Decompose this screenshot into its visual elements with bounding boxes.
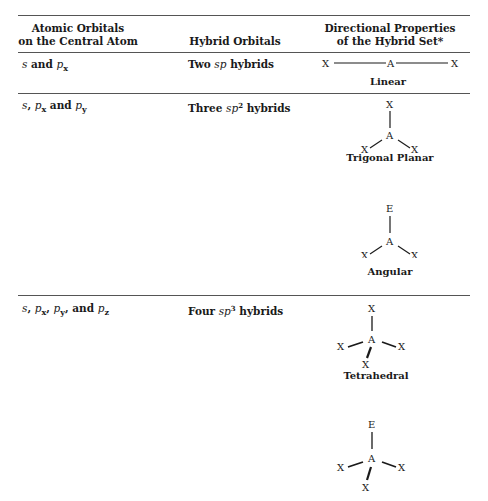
subscript: x [63, 63, 68, 73]
header-rule [18, 52, 470, 53]
text: hybrids [243, 102, 291, 114]
tetrahedral-geometry-diagram: X A X X X [330, 298, 440, 368]
header-hybrid-orbitals: Hybrid Orbitals [180, 35, 290, 48]
atom-a: A [367, 453, 376, 464]
atom-x: X [451, 58, 459, 69]
atom-a: A [385, 236, 394, 247]
header-atomic-orbitals: Atomic Orbitals on the Central Atom [18, 22, 138, 48]
header-line: of the Hybrid Set* [320, 35, 460, 48]
text: and [46, 99, 75, 111]
sp: sp [214, 58, 226, 70]
header-line: Hybrid Orbitals [180, 35, 290, 48]
atom-x: X [322, 58, 330, 69]
row3-hybrid: Four sp3 hybrids [188, 302, 283, 318]
row2-orbitals: s, px and py [22, 99, 87, 116]
atom-a: A [386, 58, 395, 69]
row1-orbitals: s and px [22, 58, 68, 75]
text: hybrids [236, 305, 284, 317]
header-line: Directional Properties [320, 22, 460, 35]
sp: sp [219, 305, 231, 317]
subscript: z [104, 307, 109, 317]
row-rule-2 [18, 295, 470, 296]
atom-e: E [386, 203, 393, 214]
text: , [27, 302, 34, 314]
linear-geometry-diagram: X A X [320, 55, 470, 75]
row2-hybrid: Three sp2 hybrids [188, 99, 291, 115]
atom-x: X [398, 462, 406, 473]
atom-x: X [411, 250, 419, 258]
angular-geometry-diagram: E A X X [340, 198, 440, 258]
atom-x: X [386, 99, 394, 110]
atom-x: X [362, 482, 370, 493]
geometry-label-tetrahedral: Tetrahedral [306, 370, 446, 381]
trigonal-planar-geometry-diagram: X A X X [340, 96, 440, 156]
text: , [27, 99, 34, 111]
geometry-label-angular: Angular [320, 266, 460, 277]
atom-a: A [367, 334, 376, 345]
table-top-rule [18, 15, 470, 16]
row1-hybrid: Two sp hybrids [188, 58, 274, 71]
row-rule-1 [18, 93, 470, 94]
atom-x: X [361, 250, 369, 258]
text: and [27, 58, 56, 70]
text: , [46, 302, 53, 314]
atom-x: X [337, 462, 345, 473]
trigonal-pyramidal-geometry-diagram: E A X X X [330, 414, 440, 501]
geometry-label-trigonal-planar: Trigonal Planar [320, 152, 460, 163]
atom-a: A [385, 130, 394, 141]
subscript: y [82, 104, 87, 114]
text: Two [188, 58, 214, 70]
atom-x: X [368, 303, 376, 314]
geometry-label-linear: Linear [318, 76, 458, 87]
sp: sp [226, 102, 238, 114]
text: Three [188, 102, 226, 114]
text: , and [65, 302, 98, 314]
text: hybrids [226, 58, 274, 70]
atom-x: X [398, 341, 406, 352]
text: Four [188, 305, 219, 317]
atom-x: X [362, 359, 370, 368]
header-line: Atomic Orbitals [18, 22, 138, 35]
row3-orbitals: s, px, py, and pz [22, 302, 109, 319]
atom-x: X [337, 341, 345, 352]
header-directional-properties: Directional Properties of the Hybrid Set… [320, 22, 460, 48]
header-line: on the Central Atom [18, 35, 138, 48]
atom-e: E [368, 419, 375, 430]
